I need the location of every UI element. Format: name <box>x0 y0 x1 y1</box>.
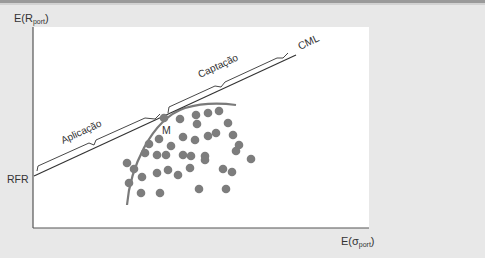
portfolio-point <box>145 140 154 149</box>
portfolio-point <box>153 151 162 160</box>
portfolio-point <box>229 131 238 140</box>
rfr-label: RFR <box>7 173 29 185</box>
portfolio-point <box>186 164 195 173</box>
portfolio-point <box>191 136 200 145</box>
portfolio-point <box>187 152 196 161</box>
portfolio-point <box>179 133 188 142</box>
portfolio-point <box>176 115 185 124</box>
y-axis-label: E(Rport) <box>14 12 49 26</box>
portfolio-point <box>224 119 233 128</box>
portfolio-point <box>162 151 171 160</box>
portfolio-point <box>222 185 231 194</box>
portfolio-point <box>141 149 150 158</box>
market-portfolio-label: M <box>162 124 171 136</box>
portfolio-point <box>179 151 188 160</box>
portfolio-point <box>204 132 213 141</box>
portfolio-point <box>193 120 202 129</box>
portfolio-point <box>247 155 256 164</box>
portfolio-point <box>215 107 224 116</box>
market-portfolio-point <box>160 114 169 123</box>
portfolio-point <box>195 185 204 194</box>
portfolio-point <box>192 111 201 120</box>
portfolio-point <box>125 179 134 188</box>
portfolio-point <box>123 159 132 168</box>
portfolio-point <box>155 135 164 144</box>
portfolio-point <box>137 189 146 198</box>
portfolio-point <box>164 166 173 175</box>
x-axis-label: E(σport) <box>341 235 375 249</box>
portfolio-point <box>204 109 213 118</box>
portfolio-point <box>174 171 183 180</box>
portfolio-point <box>156 189 165 198</box>
portfolio-point <box>138 173 147 182</box>
portfolio-point <box>228 168 237 177</box>
portfolio-point <box>232 147 241 156</box>
portfolio-point <box>219 165 228 174</box>
portfolio-point <box>153 169 162 178</box>
portfolio-point <box>130 165 139 174</box>
portfolio-point <box>201 156 210 165</box>
portfolio-point <box>212 129 221 138</box>
cml-chart: E(Rport) E(σport) RFR CML Aplicação Capt… <box>0 0 485 258</box>
portfolio-point <box>167 142 176 151</box>
